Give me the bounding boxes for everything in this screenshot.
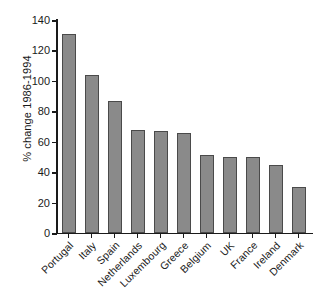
y-tick-mark <box>52 81 57 83</box>
y-tick-mark <box>52 203 57 205</box>
y-tick-label: 0 <box>44 227 50 239</box>
y-tick-label: 120 <box>32 44 50 56</box>
x-tick-mark <box>137 233 139 238</box>
bar <box>269 165 283 233</box>
bar <box>246 157 260 233</box>
y-tick-mark <box>52 111 57 113</box>
y-tick-label: 40 <box>38 166 50 178</box>
y-tick-mark <box>52 233 57 235</box>
y-tick-label: 60 <box>38 136 50 148</box>
y-tick-label: 100 <box>32 75 50 87</box>
x-tick-mark <box>160 233 162 238</box>
bar-chart-figure: % change 1986-1994 020406080100120140 Po… <box>0 0 324 307</box>
y-tick-label: 80 <box>38 105 50 117</box>
bar <box>85 75 99 233</box>
x-tick-mark <box>91 233 93 238</box>
bar <box>62 34 76 233</box>
y-tick-mark <box>52 50 57 52</box>
x-tick-mark <box>206 233 208 238</box>
x-tick-mark <box>252 233 254 238</box>
x-tick-mark <box>114 233 116 238</box>
y-axis-title: % change 1986-1994 <box>18 0 36 225</box>
y-tick-mark <box>52 20 57 22</box>
x-tick-mark <box>298 233 300 238</box>
bar <box>177 133 191 233</box>
x-tick-mark <box>229 233 231 238</box>
bar <box>200 155 214 233</box>
bar <box>154 131 168 233</box>
x-tick-mark <box>183 233 185 238</box>
y-tick-mark <box>52 172 57 174</box>
bar <box>131 130 145 233</box>
plot-area: 020406080100120140 <box>57 20 310 233</box>
x-tick-mark <box>275 233 277 238</box>
y-tick-mark <box>52 142 57 144</box>
y-tick-label: 140 <box>32 14 50 26</box>
x-tick-mark <box>68 233 70 238</box>
y-tick-label: 20 <box>38 197 50 209</box>
x-tick-label: Portugal <box>38 239 75 276</box>
bar <box>223 157 237 233</box>
bar <box>292 187 306 233</box>
bar <box>108 101 122 233</box>
